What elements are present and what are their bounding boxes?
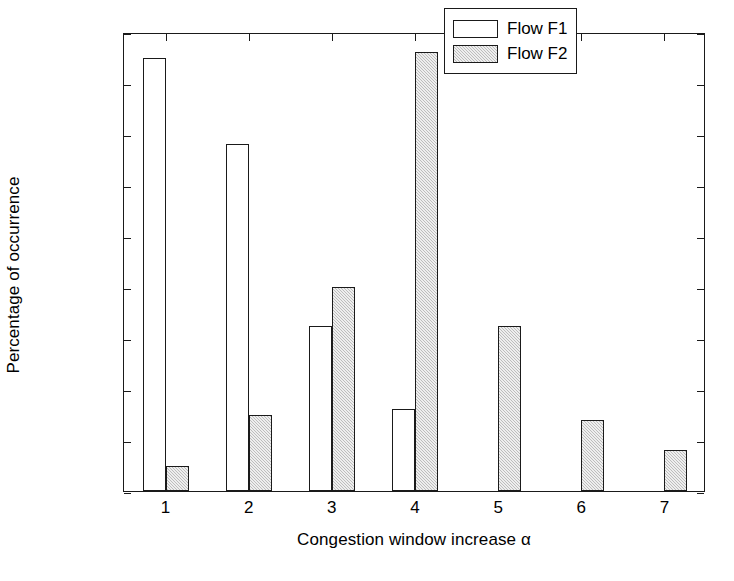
y-tick-mark-right [697, 493, 704, 494]
x-tick-label: 6 [561, 498, 601, 518]
y-tick-mark-right [697, 187, 704, 188]
y-tick-mark [124, 187, 131, 188]
y-tick-mark-right [697, 85, 704, 86]
y-tick-mark-right [697, 340, 704, 341]
x-tick-mark-top [664, 34, 665, 41]
x-axis-title: Congestion window increase α [123, 530, 705, 550]
x-tick-label: 2 [229, 498, 269, 518]
plot-area: 00.050.10.150.20.250.30.350.40.45 123456… [123, 33, 705, 492]
x-tick-label: 3 [312, 498, 352, 518]
x-tick-label: 1 [146, 498, 186, 518]
bar-flow-f2-6 [581, 420, 604, 491]
x-tick-label: 5 [478, 498, 518, 518]
x-tick-mark-top [332, 34, 333, 41]
x-tick-mark-top [581, 34, 582, 41]
y-tick-mark-right [697, 34, 704, 35]
y-tick-mark-right [697, 238, 704, 239]
x-tick-label: 7 [644, 498, 684, 518]
legend-swatch-flow-f1 [453, 20, 498, 38]
bar-flow-f2-3 [332, 287, 355, 491]
bar-chart-figure: Percentage of occurrence Congestion wind… [0, 0, 734, 581]
y-tick-mark [124, 289, 131, 290]
legend-label-flow-f2: Flow F2 [507, 44, 567, 64]
y-tick-mark-right [697, 289, 704, 290]
x-tick-mark-top [249, 34, 250, 41]
legend-swatch-flow-f2 [453, 45, 498, 63]
y-tick-mark [124, 340, 131, 341]
bar-flow-f1-3 [309, 326, 332, 491]
bar-flow-f2-7 [664, 450, 687, 491]
y-tick-mark [124, 442, 131, 443]
legend-label-flow-f1: Flow F1 [507, 19, 567, 39]
y-tick-mark [124, 391, 131, 392]
chart-legend: Flow F1 Flow F2 [444, 8, 577, 74]
x-tick-mark-top [415, 34, 416, 41]
bar-flow-f2-5 [498, 326, 521, 491]
y-tick-mark-right [697, 442, 704, 443]
legend-item-flow-f1: Flow F1 [453, 16, 568, 41]
y-tick-mark-right [697, 391, 704, 392]
bar-flow-f1-4 [392, 409, 415, 491]
x-tick-mark-top [166, 34, 167, 41]
y-tick-mark [124, 85, 131, 86]
y-axis-title: Percentage of occurrence [1, 46, 27, 505]
bar-flow-f1-2 [226, 144, 249, 491]
bar-flow-f1-1 [143, 58, 166, 492]
y-tick-mark-right [697, 136, 704, 137]
x-tick-label: 4 [395, 498, 435, 518]
y-tick-mark [124, 493, 131, 494]
y-tick-mark [124, 238, 131, 239]
bar-flow-f2-2 [249, 415, 272, 492]
y-tick-mark [124, 136, 131, 137]
bar-flow-f2-4 [415, 52, 438, 491]
legend-item-flow-f2: Flow F2 [453, 41, 568, 66]
bar-flow-f2-1 [166, 466, 189, 492]
y-tick-mark [124, 34, 131, 35]
